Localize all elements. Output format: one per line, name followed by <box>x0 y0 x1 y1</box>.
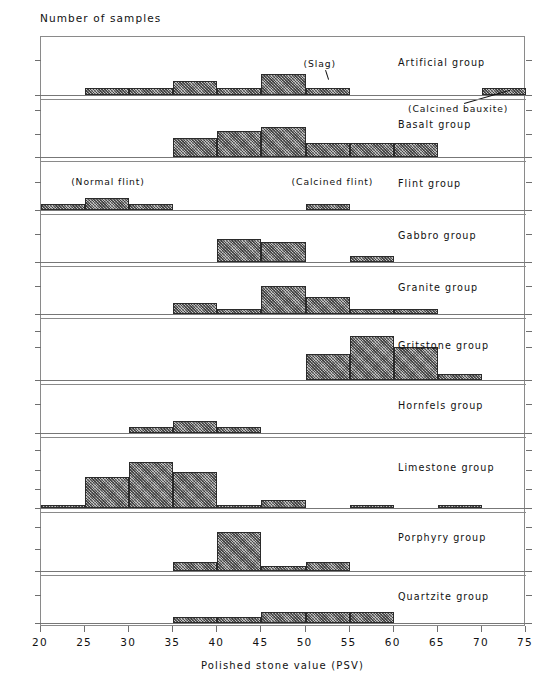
group-label: Gabbro group <box>398 230 477 241</box>
x-tick-label: 65 <box>429 636 445 648</box>
panel-separator <box>41 318 526 319</box>
panel-separator <box>41 437 526 438</box>
histogram-bar <box>41 505 85 509</box>
group-label: Gritstone group <box>398 340 489 351</box>
x-axis-title: Polished stone value (PSV) <box>40 660 525 671</box>
histogram-bar <box>261 286 305 314</box>
histogram-bar <box>261 566 305 570</box>
y-tick-right <box>526 210 532 211</box>
panel-baseline <box>41 95 526 96</box>
y-tick-right <box>526 331 532 332</box>
panel-baseline <box>41 380 526 381</box>
y-tick <box>35 60 41 61</box>
x-tick-label: 50 <box>297 636 313 648</box>
panel-limestone-group: 051015Limestone group <box>41 437 526 513</box>
x-tick <box>393 626 394 632</box>
histogram-bar <box>85 477 129 508</box>
y-tick-right <box>526 404 532 405</box>
histogram-bar <box>306 143 350 157</box>
x-tick <box>437 626 438 632</box>
panel-quartzite-group: 05Quartzite group <box>41 575 526 627</box>
y-tick <box>35 234 41 235</box>
y-tick-right <box>526 286 532 287</box>
histogram-bar <box>85 88 129 95</box>
histogram-bar <box>173 421 217 432</box>
x-tick <box>84 626 85 632</box>
y-tick-right <box>526 450 532 451</box>
histogram-bar <box>350 256 394 262</box>
histogram-bar <box>217 427 261 433</box>
x-tick-label: 75 <box>517 636 533 648</box>
histogram-bar <box>350 143 394 157</box>
y-tick <box>35 404 41 405</box>
y-tick-right <box>526 60 532 61</box>
panel-separator <box>41 384 526 385</box>
histogram-bar <box>394 347 438 380</box>
x-tick <box>525 626 526 632</box>
histogram-bar <box>306 562 350 571</box>
y-tick <box>35 134 41 135</box>
panel-flint-group: 05Flint group(Normal flint)(Calcined fli… <box>41 161 526 213</box>
y-tick-right <box>526 595 532 596</box>
x-tick-label: 25 <box>76 636 92 648</box>
x-tick <box>260 626 261 632</box>
panel-separator <box>41 214 526 215</box>
x-tick <box>349 626 350 632</box>
y-tick <box>35 595 41 596</box>
x-tick-label: 40 <box>208 636 224 648</box>
panel-baseline <box>41 157 526 158</box>
panel-granite-group: 05Granite group <box>41 266 526 318</box>
histogram-bar <box>173 138 217 157</box>
group-label: Quartzite group <box>398 591 489 602</box>
y-tick-right <box>526 134 532 135</box>
histogram-bar <box>217 532 261 570</box>
y-tick-right <box>526 95 532 96</box>
y-tick <box>35 331 41 332</box>
panel-baseline <box>41 433 526 434</box>
histogram-bar <box>306 88 350 95</box>
histogram-bar <box>438 374 482 381</box>
y-tick-right <box>526 110 532 111</box>
x-tick <box>481 626 482 632</box>
histogram-bar <box>261 612 305 623</box>
histogram-bar <box>394 309 438 315</box>
y-tick-right <box>526 380 532 381</box>
panel-porphyry-group: 0510Porphyry group <box>41 512 526 574</box>
x-tick-label: 35 <box>164 636 180 648</box>
y-tick <box>35 262 41 263</box>
panel-separator <box>41 266 526 267</box>
x-tick <box>216 626 217 632</box>
panel-basalt-group: 0510Basalt group <box>41 99 526 161</box>
panel-separator <box>41 512 526 513</box>
group-label: Hornfels group <box>398 400 484 411</box>
annotation-leader-line <box>325 70 329 80</box>
panel-separator <box>41 161 526 162</box>
y-tick <box>35 210 41 211</box>
x-tick <box>128 626 129 632</box>
histogram-bar <box>306 297 350 314</box>
panel-artificial-group: 05Artificial group(Slag)(Calcined bauxit… <box>41 37 526 99</box>
histogram-bar <box>306 204 350 210</box>
x-tick-label: 55 <box>341 636 357 648</box>
histogram-bar <box>129 204 173 210</box>
histogram-bar <box>85 198 129 209</box>
histogram-bar <box>217 88 261 95</box>
y-tick-right <box>526 347 532 348</box>
y-tick <box>35 508 41 509</box>
histogram-bar <box>173 472 217 508</box>
histogram-bar <box>438 505 482 509</box>
histogram-bar <box>350 612 394 623</box>
histogram-bar <box>350 505 394 509</box>
y-tick <box>35 347 41 348</box>
x-tick-label: 30 <box>120 636 136 648</box>
histogram-bar <box>217 239 261 262</box>
histogram-bar <box>217 505 261 509</box>
panel-baseline <box>41 210 526 211</box>
y-tick-right <box>526 549 532 550</box>
y-tick <box>35 182 41 183</box>
histogram-bar <box>173 303 217 314</box>
y-tick <box>35 489 41 490</box>
annotation-label: (Calcined flint) <box>292 176 374 187</box>
annotation-label: (Normal flint) <box>71 176 145 187</box>
x-tick-label: 70 <box>473 636 489 648</box>
